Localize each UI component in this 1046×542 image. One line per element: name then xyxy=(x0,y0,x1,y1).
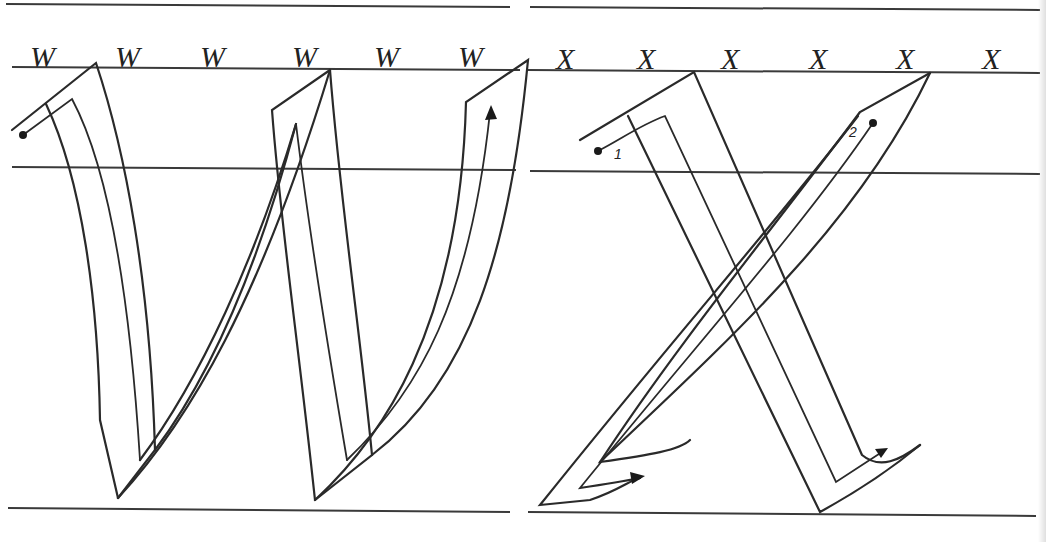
baseline-rule-right xyxy=(528,512,1036,516)
x-sample: X xyxy=(637,44,655,74)
ascender-rule-right xyxy=(528,70,1040,73)
stroke-number-1: 1 xyxy=(614,146,622,162)
x-sample: X xyxy=(896,44,914,74)
x-stroke2-start-dot xyxy=(869,119,877,127)
x-sample: X xyxy=(721,44,739,74)
w-sample: W xyxy=(374,42,399,72)
w-sample: W xyxy=(200,42,225,72)
letter-x-outline xyxy=(540,72,930,512)
top-rule-left xyxy=(6,4,510,7)
x-stroke1-end-arrow-icon xyxy=(875,448,888,458)
w-sample: W xyxy=(115,42,140,72)
stroke-number-2: 2 xyxy=(849,124,857,140)
w-stroke-start-dot xyxy=(19,131,27,139)
x-stroke2-end-arrow-icon xyxy=(630,472,645,484)
page-edge-shadow xyxy=(1038,0,1046,542)
w-sample: W xyxy=(458,42,483,72)
w-stroke-end-arrow-icon xyxy=(485,105,497,120)
top-rule-right xyxy=(530,7,1040,10)
letter-w-outline xyxy=(12,60,528,500)
x-sample: X xyxy=(809,44,827,74)
calligraphy-practice-sheet: W W W W W W X X X X X X 1 2 xyxy=(0,0,1046,542)
w-sample: W xyxy=(292,42,317,72)
x-sample: X xyxy=(556,44,574,74)
waist-rule-left xyxy=(12,167,516,170)
x-sample: X xyxy=(982,44,1000,74)
w-sample: W xyxy=(30,42,55,72)
guide-and-stroke-drawing xyxy=(0,0,1046,542)
waist-rule-right xyxy=(530,171,1040,174)
x-stroke1-start-dot xyxy=(594,147,602,155)
baseline-rule-left xyxy=(8,508,510,512)
